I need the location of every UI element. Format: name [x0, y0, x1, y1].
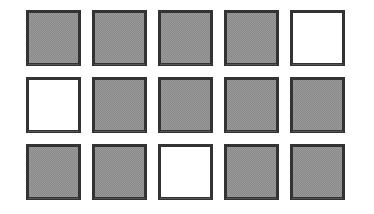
- grid-row: [26, 77, 345, 133]
- grid-cell-2-1: [26, 77, 81, 133]
- grid-cell-3-3: [158, 144, 213, 200]
- grid-cell-2-4: [224, 77, 279, 133]
- grid-cell-1-4: [224, 10, 279, 66]
- grid-row: [26, 10, 345, 66]
- grid-cell-1-1: [26, 10, 81, 66]
- grid-cell-3-4: [224, 144, 279, 200]
- grid-container: [26, 10, 345, 200]
- square-grid-figure: [0, 0, 374, 214]
- grid-cell-1-3: [158, 10, 213, 66]
- grid-cell-3-2: [92, 144, 147, 200]
- grid-cell-2-3: [158, 77, 213, 133]
- grid-cell-1-5: [290, 10, 345, 66]
- grid-row: [26, 144, 345, 200]
- grid-cell-3-5: [290, 144, 345, 200]
- grid-cell-1-2: [92, 10, 147, 66]
- grid-cell-3-1: [26, 144, 81, 200]
- grid-cell-2-2: [92, 77, 147, 133]
- grid-cell-2-5: [290, 77, 345, 133]
